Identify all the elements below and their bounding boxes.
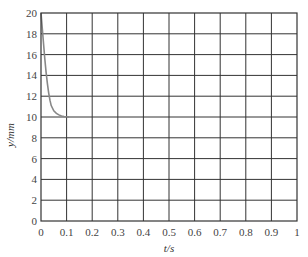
x-tick-label: 0.1	[60, 226, 74, 238]
y-tick-label: 16	[26, 49, 38, 61]
y-tick-label: 12	[26, 90, 37, 102]
x-tick-label: 0.3	[111, 226, 125, 238]
x-axis-ticks: 00.10.20.30.40.50.60.70.80.91	[38, 226, 300, 238]
x-tick-label: 0.2	[85, 226, 99, 238]
y-tick-label: 18	[26, 28, 38, 40]
y-tick-label: 20	[26, 7, 38, 19]
x-tick-label: 0.5	[162, 226, 176, 238]
y-tick-label: 10	[26, 111, 38, 123]
x-tick-label: 1	[294, 226, 300, 238]
x-tick-label: 0.6	[188, 226, 202, 238]
data-line	[41, 13, 69, 117]
y-axis-label: y/mm	[4, 123, 16, 148]
x-tick-label: 0.9	[265, 226, 279, 238]
x-axis-label: t/s	[164, 242, 174, 254]
y-tick-label: 6	[32, 153, 38, 165]
y-tick-label: 4	[32, 173, 38, 185]
x-tick-label: 0.7	[213, 226, 227, 238]
y-tick-label: 0	[32, 215, 38, 227]
x-tick-label: 0.4	[137, 226, 151, 238]
y-tick-label: 2	[32, 194, 38, 206]
y-tick-label: 8	[32, 132, 38, 144]
x-tick-label: 0.8	[239, 226, 253, 238]
y-tick-label: 14	[26, 69, 38, 81]
y-axis-ticks: 02468101214161820	[26, 7, 38, 227]
line-chart: 00.10.20.30.40.50.60.70.80.91 0246810121…	[0, 0, 308, 257]
grid-lines	[41, 13, 297, 221]
x-tick-label: 0	[38, 226, 44, 238]
